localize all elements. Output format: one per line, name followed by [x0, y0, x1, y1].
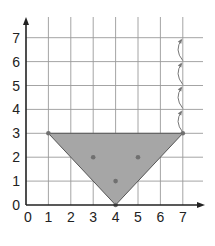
x-tick-label: 0	[24, 209, 32, 225]
x-tick-label: 6	[157, 209, 165, 225]
x-tick-label: 1	[45, 209, 53, 225]
x-axis-arrowhead-icon	[197, 202, 205, 208]
x-tick-label: 5	[134, 209, 142, 225]
y-tick-label: 2	[12, 149, 20, 165]
y-tick-label: 5	[12, 78, 20, 94]
data-point	[113, 179, 118, 184]
x-tick-label: 7	[179, 209, 187, 225]
y-tick-label: 3	[12, 125, 20, 141]
y-tick-label: 1	[12, 173, 20, 189]
data-point	[136, 155, 141, 160]
y-tick-labels: 01234567	[12, 30, 20, 213]
data-point	[91, 155, 96, 160]
x-tick-labels: 01234567	[24, 209, 187, 225]
y-tick-label: 7	[12, 30, 20, 46]
coordinate-grid-chart: 01234567 01234567	[0, 0, 215, 246]
x-tick-label: 4	[112, 209, 120, 225]
x-tick-label: 3	[89, 209, 97, 225]
x-tick-label: 2	[67, 209, 75, 225]
y-tick-label: 4	[12, 101, 20, 117]
y-axis-arrowhead-icon	[23, 17, 29, 25]
y-tick-label: 0	[12, 197, 20, 213]
shaded-triangle	[48, 133, 182, 205]
y-tick-label: 6	[12, 54, 20, 70]
data-point	[46, 131, 51, 136]
